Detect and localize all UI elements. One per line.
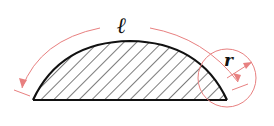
arc-length-label: ℓ (117, 12, 126, 39)
hatched-segment (33, 41, 227, 100)
radius-label: r (224, 50, 233, 70)
